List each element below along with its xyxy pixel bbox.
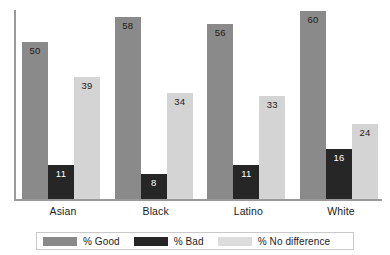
bar: 50: [22, 42, 48, 199]
bar-value-label: 39: [74, 80, 100, 91]
bar-value-label: 33: [259, 99, 285, 110]
bar-value-label: 56: [207, 27, 233, 38]
bar: 60: [300, 11, 326, 199]
bar-group: 561133: [207, 10, 289, 199]
legend-item[interactable]: % No difference: [218, 236, 330, 247]
bar: 24: [352, 124, 378, 199]
bar-value-label: 8: [141, 177, 167, 188]
legend-swatch: [43, 237, 77, 246]
bar-groups: 50113958834561133601624: [22, 10, 382, 199]
legend-label: % Good: [83, 236, 120, 247]
bar: 33: [259, 96, 285, 199]
bar-value-label: 11: [233, 168, 259, 179]
legend-swatch: [134, 237, 168, 246]
bar-value-label: 11: [48, 168, 74, 179]
y-axis-line: [14, 10, 16, 201]
plot-area: 50113958834561133601624: [14, 10, 382, 201]
legend-item[interactable]: % Good: [43, 236, 120, 247]
category-label: White: [300, 205, 382, 217]
bar: 8: [141, 174, 167, 199]
bar: 56: [207, 24, 233, 199]
bar: 11: [233, 165, 259, 199]
x-axis-category-labels: AsianBlackLatinoWhite: [22, 205, 382, 217]
bar-value-label: 34: [167, 96, 193, 107]
bar-value-label: 24: [352, 127, 378, 138]
bar-value-label: 50: [22, 45, 48, 56]
bar-value-label: 60: [300, 14, 326, 25]
x-axis-line: [14, 199, 382, 201]
bar-group: 501139: [22, 10, 104, 199]
bar-value-label: 58: [115, 20, 141, 31]
legend-label: % Bad: [174, 236, 204, 247]
bar-chart: 50113958834561133601624 AsianBlackLatino…: [0, 0, 390, 255]
bar-value-label: 16: [326, 152, 352, 163]
bar-group: 58834: [115, 10, 197, 199]
category-label: Latino: [207, 205, 289, 217]
legend-swatch: [218, 237, 252, 246]
category-label: Asian: [22, 205, 104, 217]
bar: 39: [74, 77, 100, 199]
chart-legend: % Good% Bad% No difference: [36, 232, 354, 250]
bar: 16: [326, 149, 352, 199]
legend-label: % No difference: [258, 236, 330, 247]
bar: 34: [167, 93, 193, 199]
bar: 58: [115, 17, 141, 199]
category-label: Black: [115, 205, 197, 217]
legend-item[interactable]: % Bad: [134, 236, 204, 247]
bar: 11: [48, 165, 74, 199]
bar-group: 601624: [300, 10, 382, 199]
